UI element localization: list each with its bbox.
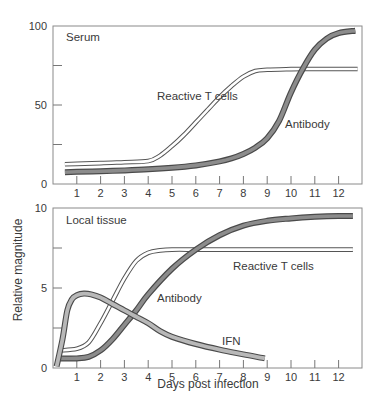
series-label-antibody: Antibody	[157, 292, 202, 304]
x-tick-label: 4	[145, 371, 151, 383]
x-tick-label: 7	[217, 187, 223, 199]
x-tick-label: 1	[74, 187, 80, 199]
series-antibody	[60, 216, 353, 359]
series-line-outline	[65, 69, 358, 164]
y-tick-label: 0	[41, 178, 47, 190]
x-tick-label: 10	[285, 187, 297, 199]
x-tick-label: 5	[169, 371, 175, 383]
x-tick-label: 8	[240, 371, 246, 383]
x-tick-label: 9	[264, 371, 270, 383]
x-tick-label: 11	[309, 371, 320, 383]
x-tick-label: 12	[332, 187, 344, 199]
x-tick-label: 11	[309, 187, 320, 199]
figure: Relative magnitude Days post infection S…	[0, 0, 378, 411]
panel-serum: Serum123456789101112050100Reactive T cel…	[29, 20, 362, 199]
x-tick-label: 4	[145, 187, 151, 199]
x-tick-label: 6	[193, 371, 199, 383]
series-line-outline	[60, 216, 353, 359]
series-label-reactive-t-cells: Reactive T cells	[233, 260, 314, 272]
x-tick-label: 10	[285, 371, 297, 383]
panel-local-tissue: Local tissue1234567891011120510Reactive …	[35, 202, 362, 383]
y-axis-label: Relative magnitude	[11, 218, 25, 321]
x-tick-label: 5	[169, 187, 175, 199]
x-tick-label: 7	[217, 371, 223, 383]
x-tick-label: 12	[332, 371, 344, 383]
x-tick-label: 1	[74, 371, 80, 383]
panel-title: Serum	[66, 31, 100, 43]
x-tick-label: 8	[240, 187, 246, 199]
x-tick-label: 3	[121, 371, 127, 383]
series-reactive-t-cells	[65, 69, 358, 164]
y-tick-label: 5	[41, 282, 47, 294]
series-line-fill	[60, 216, 353, 359]
y-tick-label: 100	[29, 20, 47, 32]
y-tick-label: 50	[35, 99, 47, 111]
y-tick-label: 10	[35, 202, 47, 214]
x-tick-label: 9	[264, 187, 270, 199]
y-tick-label: 0	[41, 362, 47, 374]
x-tick-label: 2	[98, 187, 104, 199]
series-label-reactive-t-cells: Reactive T cells	[157, 90, 238, 102]
x-tick-label: 6	[193, 187, 199, 199]
x-tick-label: 3	[121, 187, 127, 199]
panel-title: Local tissue	[66, 214, 127, 226]
series-label-ifn: IFN	[222, 335, 241, 347]
x-tick-label: 2	[98, 371, 104, 383]
series-label-antibody: Antibody	[285, 118, 330, 130]
series-line-inner	[65, 69, 358, 164]
